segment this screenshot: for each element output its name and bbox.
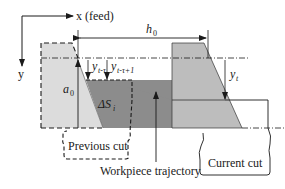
current-cut-label: Current cut [208, 156, 263, 170]
y-t-tau-subscript: t-τ [98, 66, 107, 75]
y-t-tau-label: y [91, 59, 98, 73]
y-t-tau-1-label: y [110, 59, 117, 73]
y-t-tau-1-subscript: t-τ+1 [117, 66, 134, 75]
y-t-label: y [229, 67, 236, 81]
y-t-subscript: t [236, 74, 239, 83]
current-cut-tool [172, 43, 242, 128]
cutting-diagram: x (feed) y h 0 a 0 y t-τ y t-τ+1 y t ΔS … [0, 0, 285, 189]
a0-subscript: 0 [70, 89, 74, 98]
a0-label: a [63, 82, 69, 96]
h0-label: h [146, 22, 152, 36]
y-axis-label: y [18, 67, 24, 81]
previous-cut-label: Previous cut [68, 139, 128, 153]
x-axis-label: x (feed) [76, 9, 114, 23]
h0-subscript: 0 [153, 29, 157, 38]
workpiece-trajectory-label: Workpiece trajectory [100, 164, 201, 178]
delta-s-subscript: i [113, 104, 115, 113]
delta-s-label: ΔS [97, 97, 111, 111]
